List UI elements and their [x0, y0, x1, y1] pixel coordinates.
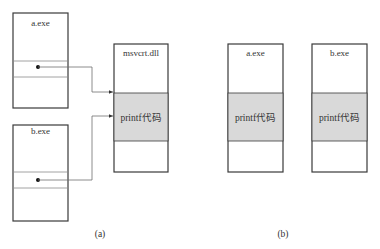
panel-b: a.exe printf代码 b.exe printf代码 (b): [228, 44, 367, 240]
library-label: msvcrt.dll: [123, 48, 160, 58]
caption-b: (b): [277, 229, 288, 240]
process-label: b.exe: [330, 48, 349, 58]
caption-a: (a): [95, 229, 106, 240]
dll-sharing-diagram: a.exe b.exe msvcrt.dll printf代码 (a) a.ex: [0, 0, 380, 249]
process-label: a.exe: [31, 18, 50, 28]
process-b-exe: b.exe: [13, 125, 68, 221]
code-label: printf代码: [319, 113, 360, 123]
process-label: b.exe: [31, 126, 50, 136]
panel-a: a.exe b.exe msvcrt.dll printf代码 (a): [13, 13, 168, 240]
code-label: printf代码: [120, 113, 161, 123]
shared-library-msvcrt: msvcrt.dll printf代码: [114, 44, 168, 172]
process-label: a.exe: [246, 48, 265, 58]
process-a-exe: a.exe: [13, 13, 68, 108]
code-label: printf代码: [235, 113, 276, 123]
process-box: [13, 125, 68, 221]
process-b-exe-static: b.exe printf代码: [312, 44, 367, 172]
process-a-exe-static: a.exe printf代码: [228, 44, 283, 172]
